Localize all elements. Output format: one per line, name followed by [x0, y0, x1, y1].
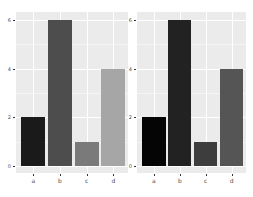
- x-tick-mark: [154, 174, 155, 176]
- x-tick-label: d: [226, 177, 238, 184]
- bar-b: [168, 20, 191, 166]
- y-tick-label: 2: [122, 114, 132, 120]
- bar-c: [194, 142, 217, 166]
- x-tick-mark: [232, 174, 233, 176]
- y-tick-label: 0: [122, 163, 132, 169]
- x-tick-label: b: [174, 177, 186, 184]
- y-tick-mark: [134, 69, 136, 70]
- bar-a: [142, 117, 165, 166]
- chart-panel-2: 0246abcd: [0, 0, 253, 197]
- y-tick-mark: [134, 117, 136, 118]
- y-tick-mark: [134, 166, 136, 167]
- x-tick-label: c: [200, 177, 212, 184]
- y-tick-label: 6: [122, 17, 132, 23]
- y-tick-mark: [134, 20, 136, 21]
- x-tick-mark: [180, 174, 181, 176]
- x-tick-label: a: [148, 177, 160, 184]
- x-tick-mark: [206, 174, 207, 176]
- bar-d: [220, 69, 243, 166]
- y-tick-label: 4: [122, 66, 132, 72]
